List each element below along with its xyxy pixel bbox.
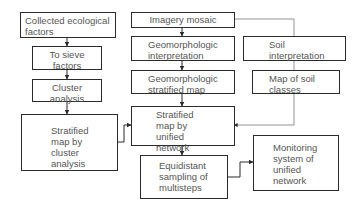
box-to-sieve-factors: To sieve factors [32, 46, 102, 70]
box-label: Cluster analysis [50, 82, 84, 104]
box-label: Map of soil classes [269, 73, 315, 95]
arrow-soil-map-to-unified [234, 93, 294, 125]
box-label: Stratified map by cluster analysis [51, 125, 89, 169]
arrow-equidistant-to-monitoring [227, 162, 253, 177]
box-label: Geomorphologic interpretation [148, 39, 218, 61]
box-equidistant-sampling-of-multisteps: Equidistant sampling of multisteps [140, 155, 228, 199]
box-imagery-mosaic: Imagery mosaic [131, 12, 235, 28]
box-label: Soil interpretation [269, 39, 324, 61]
box-geomorphologic-stratified-map: Geomorphologic stratified map [131, 70, 235, 94]
box-label: Monitoring system of unified network [273, 142, 317, 186]
box-monitoring-system-of-unified-network: Monitoring system of unified network [253, 135, 339, 191]
box-geomorphologic-interpretation: Geomorphologic interpretation [131, 36, 235, 61]
box-label: Imagery mosaic [149, 14, 216, 25]
box-label: Equidistant sampling of multisteps [159, 160, 208, 193]
arrow-cluster-map-to-unified [117, 125, 131, 142]
box-map-of-soil-classes: Map of soil classes [252, 70, 340, 94]
box-cluster-analysis: Cluster analysis [32, 79, 102, 102]
box-collected-ecological-factors: Collected ecological factors [20, 12, 116, 38]
box-label: Collected ecological factors [25, 15, 110, 37]
box-label: Geomorphologic stratified map [148, 73, 218, 95]
box-stratified-map-by-cluster-analysis: Stratified map by cluster analysis [21, 114, 118, 171]
box-soil-interpretation: Soil interpretation [243, 36, 346, 61]
box-stratified-map-by-unified-network: Stratified map by unified network [131, 106, 235, 146]
line-imagery-to-soil [234, 19, 294, 36]
box-label: To sieve factors [50, 49, 85, 71]
box-label: Stratified map by unified network [156, 109, 194, 153]
